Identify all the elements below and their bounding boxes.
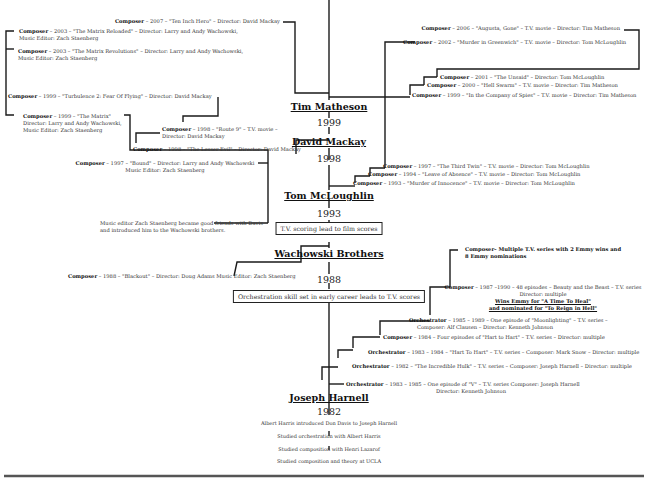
credit-matrix-revolutions: Composer – 2003 – "The Matrix Revolution… [18, 48, 243, 62]
year-1993: 1993 [317, 208, 341, 219]
credit-route-9: Composer – 1998 – "Route 9" – T.V. movie… [162, 126, 278, 140]
credit-turbulence-2: Composer – 1999 – "Turbulence 2: Fear Of… [8, 93, 212, 100]
staenberg-note: Music editor Zach Staenberg became good … [100, 220, 215, 234]
credit-murder-greenwich: Composer – 2002 – "Murder in Greenwich" … [403, 39, 626, 46]
node-tim-matheson: Tim Matheson [291, 101, 368, 112]
credit-company-of-spies: Composer – 1999 – "In the Company of Spi… [412, 92, 636, 99]
node-joseph-harnell: Joseph Harnell [289, 392, 368, 403]
year-1982: 1982 [317, 406, 341, 417]
credit-lesser-evil: Composer – 1998 – "The Lesser Evil" – Di… [133, 146, 301, 153]
year-1999: 1999 [317, 117, 341, 128]
node-david-mackay: David Mackay [292, 136, 366, 147]
credit-beauty-beast: Composer – 1987 –1990 – 48 episodes – Be… [440, 284, 646, 312]
year-1998: 1998 [317, 153, 341, 164]
credit-hart-to-hart-orchestrator: Orchestrator – 1983 – 1984 – "Hart To Ha… [368, 349, 639, 356]
credit-bound: Composer – 1997 – "Bound" – Director: La… [70, 160, 260, 174]
credit-the-unsaid: Composer – 2001 – "The Unsaid" – Directo… [440, 74, 604, 81]
emmy-summary: Composer– Multiple T.V. series with 2 Em… [465, 246, 621, 260]
credit-moonlighting: Orchestrator – 1985 – 1989 – One episode… [409, 317, 608, 331]
origin-composition-lazarof: Studied composition with Henri Lazarof [278, 446, 380, 452]
credit-the-matrix: Composer – 1999 – "The Matrix"Director: … [23, 113, 122, 134]
origin-ucla: Studied composition and theory at UCLA [277, 458, 381, 464]
credit-blackout: Composer – 1988 – "Blackout" – Director:… [68, 273, 296, 280]
year-1988: 1988 [317, 274, 341, 285]
credit-matrix-reloaded: Composer – 2003 – "The Matrix Reloaded" … [19, 28, 238, 42]
credit-leave-of-absence: Composer – 1994 – "Leave of Absence" – T… [368, 171, 580, 178]
credit-hell-swarm: Composer – 2000 – "Hell Swarm" – T.V. mo… [427, 82, 618, 89]
credit-ten-inch-hero: Composer – 2007 – "Ten Inch Hero" – Dire… [90, 18, 280, 25]
credit-v-series: Orchestrator – 1983 – 1985 – One episode… [346, 381, 580, 395]
origin-albert-harris-intro: Albert Harris introduced Don Davis to Jo… [261, 420, 397, 426]
node-tom-mcloughlin: Tom McLoughlin [284, 190, 374, 201]
node-wachowski-brothers: Wachowski Brothers [274, 248, 383, 259]
credit-hart-to-hart-composer: Composer – 1984 – Four episodes of "Hart… [383, 334, 605, 341]
milestone-orchestration-to-tv: Orchestration skill set in early career … [233, 290, 425, 303]
credit-murder-innocence: Composer – 1993 – "Murder of Innocence" … [353, 180, 575, 187]
credit-incredible-hulk: Orchestrator – 1982 – "The Incredible Hu… [352, 363, 632, 370]
credit-augusta-gone: Composer – 2006 – "Augusta, Gone" – T.V.… [410, 25, 620, 32]
origin-orchestration-study: Studied orchestration with Albert Harris [277, 433, 380, 439]
milestone-tv-to-film: T.V. scoring lead to film scores [276, 222, 383, 235]
credit-third-twin: Composer – 1997 – "The Third Twin" – T.V… [383, 163, 590, 170]
